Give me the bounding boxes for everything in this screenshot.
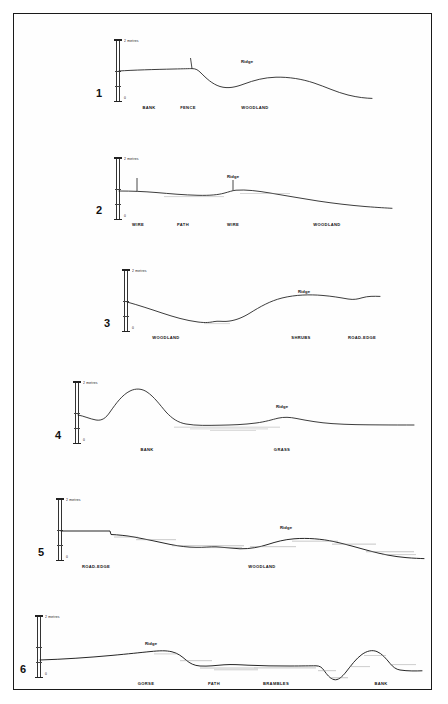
profile-line-5 — [14, 469, 431, 574]
ridge-label-1: Ridge — [241, 59, 253, 64]
feature-label-road-edge-3: ROAD-EDGE — [348, 335, 376, 340]
feature-label-road-edge-5: ROAD-EDGE — [82, 564, 110, 569]
ridge-label-4: Ridge — [276, 404, 288, 409]
ridge-label-6: Ridge — [145, 641, 157, 646]
ground-stipple-3 — [204, 323, 230, 324]
feature-label-path: PATH — [177, 222, 189, 227]
profile-line-1 — [14, 14, 431, 119]
feature-label-fence: FENCE — [180, 105, 196, 110]
profile-panel-2: 2 2 metres 0 Ridge WIRE PATH WIRE WOODLA… — [14, 130, 431, 235]
feature-label-woodland: WOODLAND — [241, 105, 268, 110]
ridge-label-3: Ridge — [298, 289, 310, 294]
profile-panel-5: 5 2 metres 0 Ridge — [14, 469, 431, 574]
feature-label-woodland-5: WOODLAND — [248, 564, 275, 569]
profile-line-4 — [14, 354, 431, 459]
feature-label-brambles: BRAMBLES — [263, 681, 289, 686]
feature-label-wire-left: WIRE — [132, 222, 144, 227]
feature-label-wire-right: WIRE — [227, 222, 239, 227]
profile-panel-6: 6 2 metres 0 Ri — [14, 592, 431, 689]
ground-stipple-2 — [164, 193, 290, 197]
profile-line-3 — [14, 242, 431, 347]
profile-panel-1: 1 2 metres 0 Ridge BANK FENCE WOODLAND — [14, 14, 431, 119]
feature-label-bank: BANK — [142, 105, 155, 110]
profile-panel-3: 3 2 metres 0 Ridge WOODLAND SHRUBS ROAD-… — [14, 242, 431, 347]
feature-label-bank-6: BANK — [374, 681, 387, 686]
feature-label-shrubs: SHRUBS — [291, 335, 310, 340]
profile-panel-4: 4 2 metres 0 Ridge BANK GRASS — [14, 354, 431, 459]
feature-label-woodland-2: WOODLAND — [313, 222, 340, 227]
feature-label-bank-4: BANK — [140, 447, 153, 452]
fence-tick-icon — [191, 58, 193, 69]
ridge-label-2: Ridge — [227, 174, 239, 179]
figure-plate-inner: 1 2 metres 0 Ridge BANK FENCE WOODLAND 2 — [14, 14, 431, 689]
profile-line-6 — [14, 592, 431, 689]
ridge-label-5: Ridge — [280, 525, 292, 530]
ground-stipple-4 — [174, 427, 280, 431]
figure-plate: 1 2 metres 0 Ridge BANK FENCE WOODLAND 2 — [13, 13, 432, 690]
profile-line-2 — [14, 130, 431, 235]
feature-label-woodland-3: WOODLAND — [152, 335, 179, 340]
feature-label-path-6: PATH — [208, 681, 220, 686]
feature-label-grass: GRASS — [274, 447, 290, 452]
feature-label-gorse: GORSE — [138, 681, 155, 686]
